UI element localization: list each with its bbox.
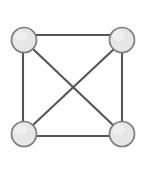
graph-node-top-left[interactable] xyxy=(12,28,37,53)
node-highlight-bottom-right xyxy=(113,125,126,135)
graph-canvas xyxy=(0,0,168,172)
graph-node-top-right[interactable] xyxy=(110,28,135,53)
graph-node-bottom-right[interactable] xyxy=(110,122,135,147)
node-highlight-bottom-left xyxy=(15,125,28,135)
node-highlight-top-left xyxy=(15,31,28,41)
node-highlight-top-right xyxy=(113,31,126,41)
graph-node-bottom-left[interactable] xyxy=(12,122,37,147)
graph-figure xyxy=(0,0,168,172)
